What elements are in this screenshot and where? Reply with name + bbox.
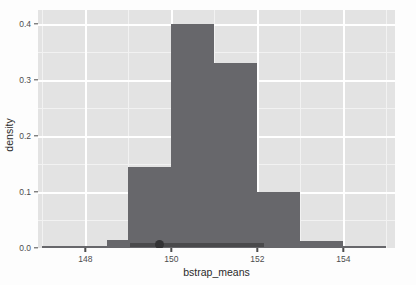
y-tick-mark xyxy=(34,79,38,80)
gridline-major-horizontal xyxy=(38,24,395,26)
x-axis-title: bstrap_means xyxy=(38,266,395,278)
y-axis-title: density xyxy=(3,105,15,165)
y-tick-mark xyxy=(34,191,38,192)
histogram-bar xyxy=(85,246,107,248)
y-tick-label: 0.4 xyxy=(19,19,31,29)
gridline-minor-vertical xyxy=(386,10,387,248)
gridline-major-vertical xyxy=(85,10,87,248)
histogram-bar xyxy=(214,63,236,248)
y-tick-label: 0.1 xyxy=(19,187,31,197)
histogram-bar xyxy=(322,241,344,248)
histogram-bar xyxy=(257,192,279,248)
point-estimate-marker xyxy=(155,240,164,248)
x-tick-mark xyxy=(257,248,258,252)
x-tick-label: 152 xyxy=(250,254,264,264)
gridline-major-vertical xyxy=(343,10,345,248)
x-tick-label: 148 xyxy=(78,254,92,264)
y-tick-label: 0.2 xyxy=(19,131,31,141)
histogram-bar xyxy=(64,246,86,248)
histogram-bar xyxy=(193,24,215,248)
x-tick-mark xyxy=(343,248,344,252)
y-tick-label: 0.0 xyxy=(19,243,31,253)
y-tick-mark xyxy=(34,23,38,24)
plot-panel xyxy=(38,10,395,248)
histogram-bar xyxy=(279,192,301,248)
histogram-bar xyxy=(42,246,64,248)
gridline-minor-vertical xyxy=(42,10,43,248)
confidence-interval-line xyxy=(130,243,263,247)
gridline-minor-vertical xyxy=(300,10,301,248)
y-tick-mark xyxy=(34,135,38,136)
histogram-bar xyxy=(107,240,129,248)
y-tick-label: 0.3 xyxy=(19,75,31,85)
density-histogram-plot: so the standard error of interval of the… xyxy=(0,0,416,285)
histogram-bar xyxy=(365,246,387,248)
y-tick-mark xyxy=(34,247,38,248)
histogram-bar xyxy=(343,246,365,248)
histogram-bar xyxy=(150,167,172,248)
x-tick-mark xyxy=(85,248,86,252)
histogram-bar xyxy=(171,24,193,248)
x-tick-label: 154 xyxy=(336,254,350,264)
x-tick-label: 150 xyxy=(164,254,178,264)
histogram-bar xyxy=(236,63,258,248)
histogram-bar xyxy=(128,167,150,248)
histogram-bar xyxy=(300,241,322,248)
x-tick-mark xyxy=(171,248,172,252)
gridline-minor-horizontal xyxy=(38,52,395,53)
